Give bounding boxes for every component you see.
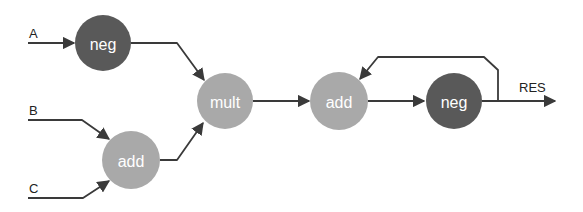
dataflow-diagram: A B C RES neg add mult add neg: [0, 0, 583, 212]
node-add-1: add: [102, 131, 160, 189]
edge-c-to-add: [28, 181, 109, 198]
node-neg-1: neg: [75, 15, 131, 71]
node-add-2-label: add: [326, 94, 353, 111]
input-label-b: B: [29, 103, 38, 118]
node-mult-label: mult: [210, 94, 241, 111]
node-neg-2: neg: [426, 73, 482, 129]
node-add-1-label: add: [118, 153, 145, 170]
edge-b-to-add: [28, 120, 109, 139]
edge-add-to-mult: [160, 123, 203, 160]
node-neg-2-label: neg: [441, 94, 468, 111]
node-neg-1-label: neg: [90, 36, 117, 53]
input-label-a: A: [29, 26, 38, 41]
input-label-c: C: [29, 181, 38, 196]
node-mult: mult: [197, 73, 253, 129]
output-label-res: RES: [519, 80, 546, 95]
edge-neg-to-mult: [131, 43, 204, 80]
node-add-2: add: [310, 72, 368, 130]
